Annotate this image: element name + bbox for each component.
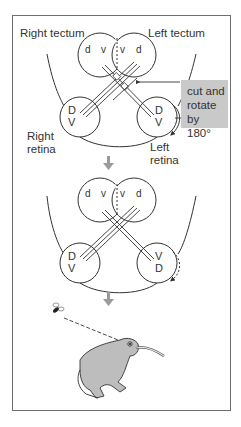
callout-line2: rotate by	[187, 98, 228, 126]
top-panel: d v v d D V D V	[47, 33, 196, 147]
tectum-letter: d	[85, 188, 91, 199]
tectum-letter: v	[120, 44, 125, 55]
tectum-letter: d	[136, 44, 142, 55]
retina-letter: V	[155, 116, 163, 128]
fly-icon	[52, 303, 64, 314]
right-retina-label-line1: Right	[27, 130, 56, 143]
right-tectum-label: Right tectum	[20, 27, 85, 40]
right-retina-label: Right retina	[27, 130, 56, 156]
retina-letter: D	[68, 250, 76, 262]
retina-letter: V	[68, 116, 76, 128]
down-arrow-1	[103, 156, 114, 170]
down-arrow-2	[103, 292, 114, 306]
callout-line3: 180°	[187, 126, 228, 140]
cut-and-rotate-callout: cut and rotate by 180°	[181, 80, 228, 128]
retina-letter: D	[68, 104, 76, 116]
sight-line	[64, 318, 123, 342]
diagram-canvas: d v v d D V D V d v v d D V	[0, 0, 241, 427]
right-retina-label-line2: retina	[27, 143, 56, 156]
left-retina-label-line1: Left	[150, 141, 179, 154]
tectum-letter: d	[85, 44, 91, 55]
retina-letter: D	[155, 262, 163, 274]
left-retina-label: Left retina	[150, 141, 179, 167]
tectum-letter: v	[101, 188, 106, 199]
retina-letter: V	[155, 250, 163, 262]
tectum-letter: v	[101, 44, 106, 55]
right-retina-top	[60, 97, 100, 137]
bottom-panel: d v v d D V V D	[47, 178, 196, 293]
tectum-letter: d	[136, 188, 142, 199]
retina-letter: V	[68, 262, 76, 274]
retina-letter: D	[155, 104, 163, 116]
tectum-letter: v	[120, 188, 125, 199]
left-tectum-label: Left tectum	[148, 27, 205, 40]
callout-line1: cut and	[187, 84, 228, 98]
left-retina-label-line2: retina	[150, 154, 179, 167]
frog-illustration	[78, 338, 164, 398]
